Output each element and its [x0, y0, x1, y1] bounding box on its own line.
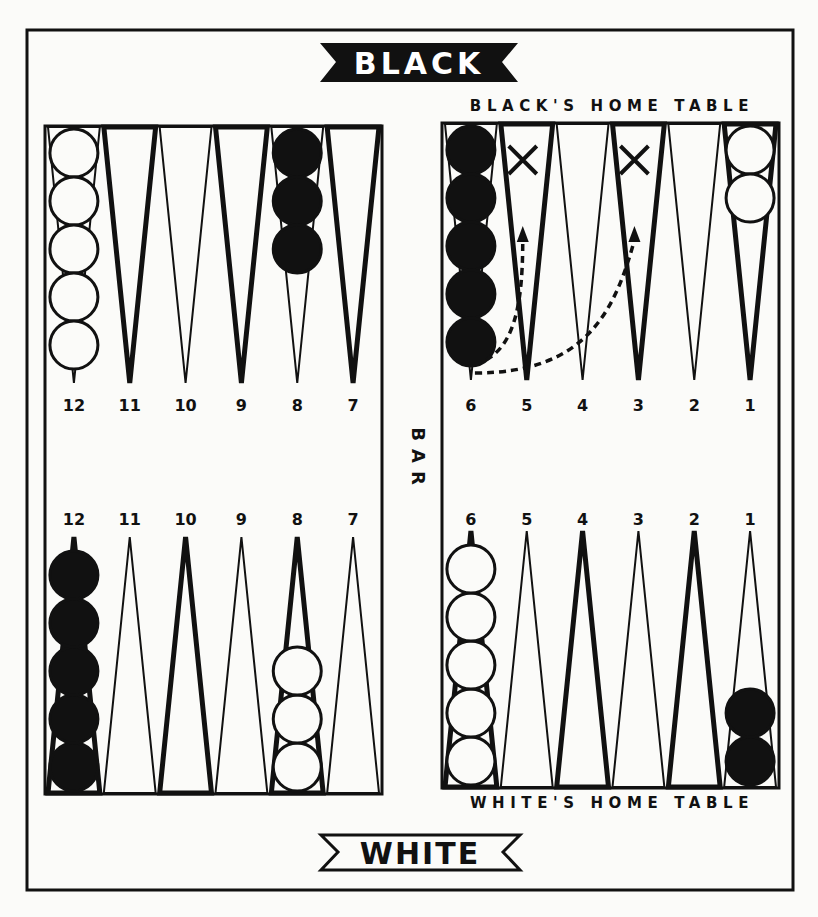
checker-white[interactable]	[273, 695, 321, 743]
point-number-label: 10	[174, 510, 196, 529]
move-arrow-path	[475, 240, 635, 373]
quadrant-bottom-left: 121110987	[48, 510, 379, 793]
point-bottom_right-2[interactable]	[668, 531, 720, 787]
point-number-label: 5	[521, 396, 532, 415]
checker-white[interactable]	[726, 174, 774, 222]
checker-white[interactable]	[726, 126, 774, 174]
checker-black[interactable]	[273, 177, 321, 225]
point-number-label: 3	[633, 396, 644, 415]
checker-black[interactable]	[50, 743, 98, 791]
checker-white[interactable]	[50, 273, 98, 321]
quadrant-top-right: 654321	[445, 124, 776, 415]
point-number-label: 1	[745, 510, 756, 529]
point-bottom_left-9[interactable]	[216, 537, 268, 793]
black-home-table-label: BLACK'S HOME TABLE	[470, 97, 754, 115]
left-board	[45, 126, 382, 794]
white-home-table-label: WHITE'S HOME TABLE	[470, 794, 754, 812]
point-bottom_right-5[interactable]	[501, 531, 553, 787]
point-number-label: 10	[174, 396, 196, 415]
point-number-label: 2	[689, 396, 700, 415]
point-number-label: 8	[292, 510, 303, 529]
checker-white[interactable]	[447, 593, 495, 641]
point-bottom_right-3[interactable]	[613, 531, 665, 787]
checker-white[interactable]	[50, 177, 98, 225]
point-number-label: 4	[577, 510, 588, 529]
point-number-label: 2	[689, 510, 700, 529]
checker-white[interactable]	[50, 225, 98, 273]
checker-black[interactable]	[447, 174, 495, 222]
checker-white[interactable]	[447, 641, 495, 689]
x-mark-icon	[620, 146, 648, 174]
checker-black[interactable]	[726, 689, 774, 737]
x-mark-icon	[509, 146, 537, 174]
arrowhead-icon	[628, 226, 640, 242]
point-number-label: 12	[63, 396, 85, 415]
point-number-label: 7	[348, 396, 359, 415]
point-bottom_left-10[interactable]	[160, 537, 212, 793]
point-bottom_left-7[interactable]	[327, 537, 379, 793]
checker-black[interactable]	[50, 695, 98, 743]
point-top_right-2[interactable]	[668, 124, 720, 380]
point-number-label: 11	[119, 396, 141, 415]
point-top_left-7[interactable]	[327, 127, 379, 383]
point-number-label: 5	[521, 510, 532, 529]
black-banner: BLACK	[320, 43, 518, 82]
checker-white[interactable]	[447, 737, 495, 785]
point-top_left-9[interactable]	[216, 127, 268, 383]
black-banner-label: BLACK	[354, 46, 484, 81]
point-top_left-10[interactable]	[160, 127, 212, 383]
point-top_left-11[interactable]	[104, 127, 156, 383]
quadrant-bottom-right: 654321	[445, 510, 776, 787]
backgammon-diagram: BLACK BLACK'S HOME TABLE BAR 121110987 6…	[0, 0, 818, 917]
point-number-label: 1	[745, 396, 756, 415]
point-number-label: 9	[236, 396, 247, 415]
point-bottom_left-11[interactable]	[104, 537, 156, 793]
right-board	[442, 123, 779, 788]
checker-white[interactable]	[50, 321, 98, 369]
checker-white[interactable]	[50, 129, 98, 177]
checker-white[interactable]	[447, 689, 495, 737]
point-number-label: 12	[63, 510, 85, 529]
checker-black[interactable]	[273, 129, 321, 177]
checker-white[interactable]	[273, 647, 321, 695]
bar-label: BAR	[408, 427, 429, 493]
checker-black[interactable]	[447, 126, 495, 174]
checker-white[interactable]	[447, 545, 495, 593]
quadrant-top-left: 121110987	[48, 127, 379, 415]
checker-black[interactable]	[50, 647, 98, 695]
point-number-label: 6	[465, 396, 476, 415]
point-number-label: 6	[465, 510, 476, 529]
point-number-label: 7	[348, 510, 359, 529]
white-banner-label: WHITE	[360, 836, 480, 871]
point-number-label: 9	[236, 510, 247, 529]
checker-black[interactable]	[726, 737, 774, 785]
point-bottom_right-4[interactable]	[557, 531, 609, 787]
checker-black[interactable]	[50, 599, 98, 647]
checker-black[interactable]	[273, 225, 321, 273]
white-banner: WHITE	[321, 835, 520, 871]
point-number-label: 4	[577, 396, 588, 415]
point-number-label: 3	[633, 510, 644, 529]
arrowhead-icon	[517, 226, 529, 242]
checker-black[interactable]	[447, 222, 495, 270]
point-number-label: 8	[292, 396, 303, 415]
checker-black[interactable]	[50, 551, 98, 599]
checker-black[interactable]	[447, 270, 495, 318]
checker-white[interactable]	[273, 743, 321, 791]
point-number-label: 11	[119, 510, 141, 529]
